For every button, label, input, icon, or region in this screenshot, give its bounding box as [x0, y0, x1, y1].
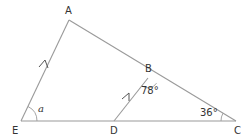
angle-arc-C — [221, 113, 223, 121]
label-E: E — [12, 125, 18, 136]
segment-AE — [21, 20, 69, 121]
label-A: A — [65, 5, 72, 16]
angle-label-78: 78° — [141, 85, 159, 96]
segment-AC — [69, 20, 236, 121]
label-D: D — [110, 125, 118, 136]
parallel-arrow-icon-DB — [122, 93, 129, 101]
triangle-diagram: A B C D E a 78° 36° — [0, 0, 251, 139]
angle-arc-E — [28, 107, 37, 122]
label-C: C — [234, 125, 241, 136]
label-B: B — [145, 63, 152, 74]
angle-label-36: 36° — [200, 107, 218, 118]
angle-label-a: a — [38, 103, 44, 114]
